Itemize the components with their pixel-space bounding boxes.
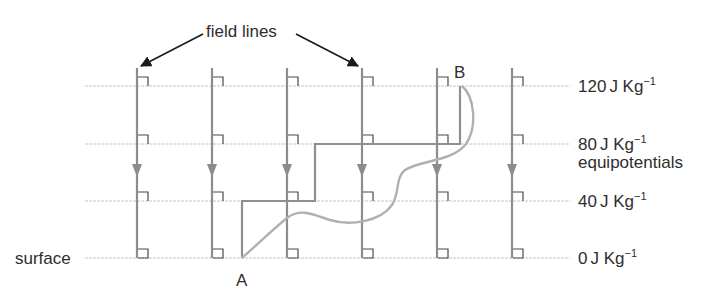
- down-arrow-icon: [357, 164, 367, 177]
- equipotentials-label: equipotentials: [578, 154, 683, 171]
- point-a-label: A: [236, 272, 247, 289]
- potential-unit: J Kg: [600, 192, 634, 211]
- down-arrow-icon: [132, 164, 142, 177]
- unit-exponent: −1: [643, 75, 656, 87]
- field-lines-label: field lines: [206, 23, 277, 40]
- potential-unit: J Kg: [609, 77, 643, 96]
- down-arrow-icon: [207, 164, 217, 177]
- unit-exponent: −1: [634, 133, 647, 145]
- down-arrow-icon: [432, 164, 442, 177]
- potential-unit: J Kg: [590, 249, 624, 268]
- field-direction-arrows: [132, 164, 517, 177]
- surface-label: surface: [15, 250, 71, 267]
- potential-unit: J Kg: [600, 135, 634, 154]
- equipotential-label-40: 40J Kg−1: [578, 193, 647, 210]
- potential-value: 0: [578, 249, 587, 268]
- equipotential-lines: [85, 86, 570, 258]
- potential-value: 120: [578, 77, 606, 96]
- right-angle-markers: [138, 77, 523, 258]
- stepped-path-a-to-b: [242, 86, 460, 258]
- field-lines-pointer-left: [141, 34, 203, 66]
- field-lines: [137, 68, 512, 258]
- unit-exponent: −1: [625, 247, 638, 259]
- down-arrow-icon: [507, 164, 517, 177]
- potential-value: 80: [578, 135, 597, 154]
- point-b-label: B: [454, 64, 465, 81]
- equipotential-label-120: 120J Kg−1: [578, 78, 656, 95]
- field-lines-pointer-right: [296, 34, 358, 66]
- equipotential-label-0: 0J Kg−1: [578, 250, 637, 267]
- unit-exponent: −1: [634, 190, 647, 202]
- down-arrow-icon: [282, 164, 292, 177]
- potential-value: 40: [578, 192, 597, 211]
- equipotential-label-80: 80J Kg−1: [578, 136, 647, 153]
